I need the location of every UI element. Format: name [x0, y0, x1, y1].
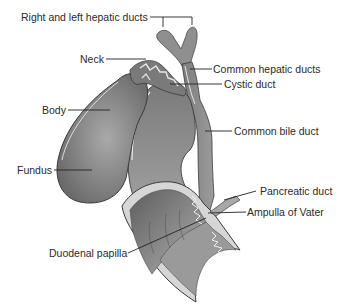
label-body: Body [42, 104, 66, 116]
label-fundus: Fundus [17, 164, 52, 176]
label-right-left-hepatic-ducts: Right and left hepatic ducts [21, 11, 148, 23]
label-ampulla-of-vater: Ampulla of Vater [247, 206, 324, 218]
label-common-bile-duct: Common bile duct [234, 125, 319, 137]
anatomy-illustration [0, 0, 341, 307]
label-common-hepatic-ducts: Common hepatic ducts [213, 63, 320, 75]
biliary-anatomy-diagram: Right and left hepatic ducts Neck Common… [0, 0, 341, 307]
label-cystic-duct: Cystic duct [224, 78, 275, 90]
duodenum [122, 182, 240, 302]
label-duodenal-papilla: Duodenal papilla [49, 247, 127, 259]
label-neck: Neck [80, 53, 104, 65]
hepatic-ducts [157, 27, 197, 66]
label-pancreatic-duct: Pancreatic duct [260, 185, 332, 197]
